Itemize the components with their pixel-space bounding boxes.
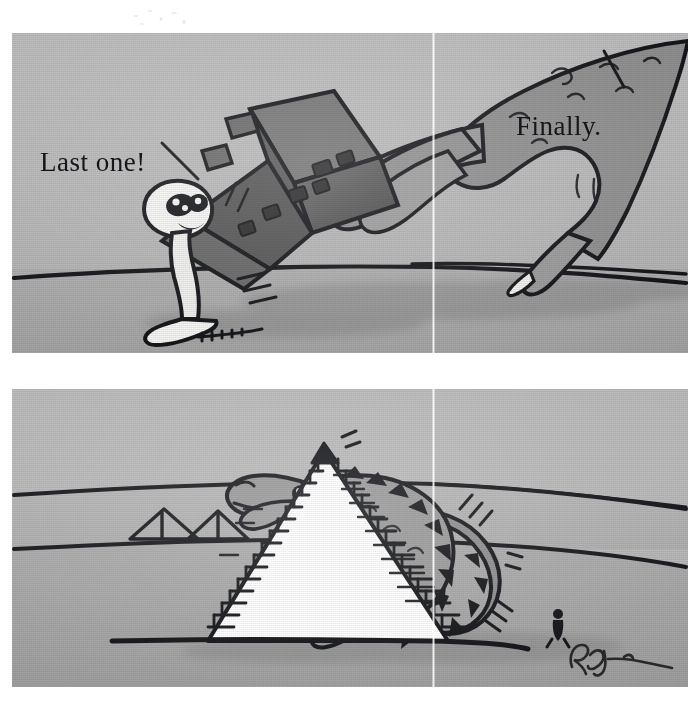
bottom-panel: CLICK [12,389,688,687]
bottom-panel-art [12,389,688,687]
caption-finally: Finally. [516,111,602,142]
top-panel: Last one! Finally. [12,33,688,353]
cartoon-page: Last one! Finally. [0,0,699,706]
top-panel-art [12,33,688,353]
scan-smudge-artifact [128,4,194,30]
caption-last-one: Last one! [40,147,146,178]
